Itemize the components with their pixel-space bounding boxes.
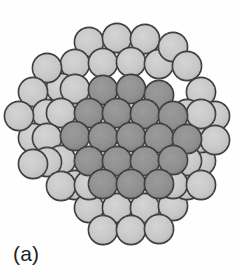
core-disk [144, 169, 173, 198]
particle-cluster-diagram [0, 0, 236, 248]
shell-disk [200, 125, 229, 154]
shell-disk [144, 214, 173, 243]
shell-disk [18, 149, 47, 178]
shell-disk [116, 47, 145, 76]
shell-disk [46, 171, 75, 200]
figure-panel: (a) [0, 0, 236, 276]
core-disk [116, 169, 145, 198]
shell-disk [88, 215, 117, 244]
shell-disk [172, 51, 201, 80]
shell-disk [88, 48, 117, 77]
shell-disk [4, 101, 33, 130]
core-disk [88, 169, 117, 198]
shell-disk [186, 170, 215, 199]
panel-label: (a) [13, 243, 39, 264]
disk-layer [4, 23, 229, 244]
shell-disk [116, 215, 145, 244]
